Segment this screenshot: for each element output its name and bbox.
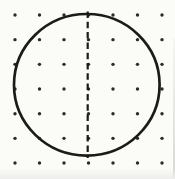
grid-dot [38,161,41,164]
grid-dot [13,38,16,41]
grid-dot [13,13,16,16]
grid-dot [136,63,139,66]
grid-dot [38,112,41,115]
grid-dot [136,38,139,41]
grid-dot [160,13,163,16]
grid-dot [111,87,114,90]
dot-paper-figure [0,0,175,179]
grid-dot [13,161,16,164]
grid-dot [111,38,114,41]
grid-dot [160,161,163,164]
grid-dot [160,112,163,115]
grid-dot [62,63,65,66]
grid-dot [13,137,16,140]
grid-dot [111,161,114,164]
grid-dot [62,161,65,164]
grid-dot [38,87,41,90]
grid-dot [160,38,163,41]
grid-dot [38,13,41,16]
grid-dot [136,13,139,16]
grid-dot [160,137,163,140]
grid-dot [38,38,41,41]
grid-dot [111,13,114,16]
grid-dot [62,38,65,41]
grid-dot [62,112,65,115]
grid-dot [136,161,139,164]
grid-dot [111,137,114,140]
grid-dot [62,87,65,90]
grid-dot [38,63,41,66]
geometry-canvas [0,0,175,179]
grid-dot [62,137,65,140]
grid-dot [136,112,139,115]
grid-dot [136,87,139,90]
grid-dot [87,161,90,164]
grid-dot [13,112,16,115]
grid-dot [111,112,114,115]
grid-dot [160,63,163,66]
grid-dot [111,63,114,66]
